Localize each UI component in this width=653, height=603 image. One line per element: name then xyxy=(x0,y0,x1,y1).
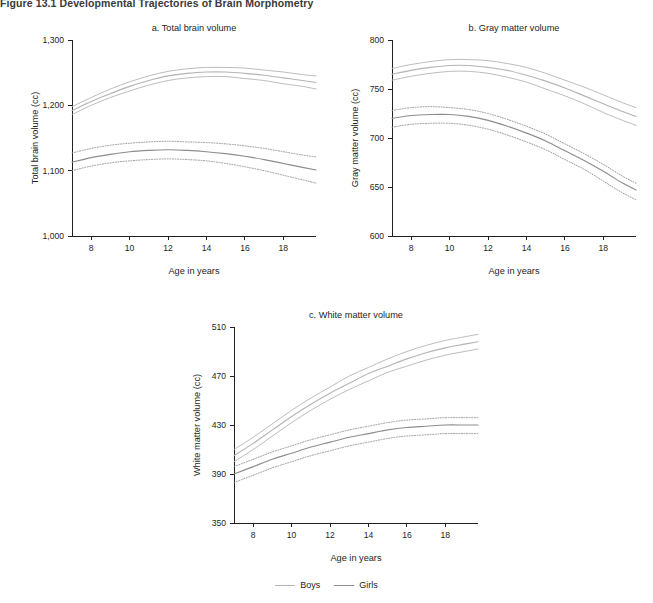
x-axis-title: Age in years xyxy=(168,266,219,276)
x-tick-label: 12 xyxy=(483,243,493,253)
chart-panel-gray-matter-volume: b. Gray matter volume6006507007508008101… xyxy=(334,24,642,282)
x-tick-label: 10 xyxy=(125,243,135,253)
x-tick-label: 16 xyxy=(560,243,570,253)
legend-label-boys: Boys xyxy=(300,580,320,590)
series-line-boys xyxy=(234,342,478,456)
series-line-boys xyxy=(392,65,636,116)
chart-panel-white-matter-volume: c. White matter volume350390430470510810… xyxy=(176,311,484,569)
x-axis-title: Age in years xyxy=(488,266,539,276)
chart-axes xyxy=(392,40,636,236)
y-tick-label: 750 xyxy=(370,84,385,94)
y-tick-label: 1,100 xyxy=(42,166,64,176)
y-axis-title: Gray matter volume (cc) xyxy=(350,89,360,188)
series-ci-lower-girls xyxy=(392,123,636,200)
x-tick-label: 16 xyxy=(402,530,412,540)
x-tick-label: 8 xyxy=(409,243,414,253)
y-tick-label: 700 xyxy=(370,133,385,143)
y-tick-label: 430 xyxy=(212,420,227,430)
x-tick-label: 14 xyxy=(364,530,374,540)
figure-title: Figure 13.1 Developmental Trajectories o… xyxy=(0,0,313,9)
x-tick-label: 14 xyxy=(522,243,532,253)
legend-label-girls: Girls xyxy=(359,580,378,590)
series-ci-lower-boys xyxy=(392,71,636,125)
x-tick-label: 10 xyxy=(287,530,297,540)
y-tick-label: 350 xyxy=(212,518,227,528)
y-axis-title: White matter volume (cc) xyxy=(192,374,202,476)
chart-svg-white-matter-volume: c. White matter volume350390430470510810… xyxy=(176,311,484,569)
y-tick-label: 390 xyxy=(212,469,227,479)
chart-axes xyxy=(72,40,316,236)
y-tick-label: 1,200 xyxy=(42,100,64,110)
y-axis-title: Total brain volume (cc) xyxy=(30,92,40,184)
chart-title: b. Gray matter volume xyxy=(469,23,560,33)
x-tick-label: 18 xyxy=(279,243,289,253)
y-tick-label: 470 xyxy=(212,371,227,381)
x-tick-label: 16 xyxy=(240,243,250,253)
y-tick-label: 510 xyxy=(212,322,227,332)
y-tick-label: 1,300 xyxy=(42,35,64,45)
chart-legend: Boys Girls xyxy=(0,580,653,590)
x-axis-title: Age in years xyxy=(330,553,381,563)
series-ci-upper-girls xyxy=(392,107,636,183)
x-tick-label: 8 xyxy=(251,530,256,540)
x-tick-label: 12 xyxy=(325,530,335,540)
series-ci-upper-boys xyxy=(234,334,478,449)
x-tick-label: 18 xyxy=(599,243,609,253)
legend-swatch-boys xyxy=(275,585,295,586)
chart-title: c. White matter volume xyxy=(309,310,403,320)
x-tick-label: 14 xyxy=(202,243,212,253)
y-tick-label: 650 xyxy=(370,182,385,192)
y-tick-label: 1,000 xyxy=(42,231,64,241)
legend-item-boys: Boys xyxy=(275,580,320,590)
series-ci-lower-boys xyxy=(72,76,316,114)
y-tick-label: 600 xyxy=(370,231,385,241)
legend-item-girls: Girls xyxy=(334,580,378,590)
y-tick-label: 800 xyxy=(370,35,385,45)
x-tick-label: 12 xyxy=(163,243,173,253)
x-tick-label: 8 xyxy=(89,243,94,253)
legend-swatch-girls xyxy=(334,585,354,586)
series-line-girls xyxy=(234,425,478,474)
series-ci-upper-boys xyxy=(392,59,636,107)
chart-title: a. Total brain volume xyxy=(152,23,237,33)
chart-svg-total-brain-volume: a. Total brain volume1,0001,1001,2001,30… xyxy=(14,24,322,282)
chart-svg-gray-matter-volume: b. Gray matter volume6006507007508008101… xyxy=(334,24,642,282)
series-ci-lower-girls xyxy=(234,433,478,482)
chart-panel-total-brain-volume: a. Total brain volume1,0001,1001,2001,30… xyxy=(14,24,322,282)
x-tick-label: 10 xyxy=(445,243,455,253)
x-tick-label: 18 xyxy=(441,530,451,540)
